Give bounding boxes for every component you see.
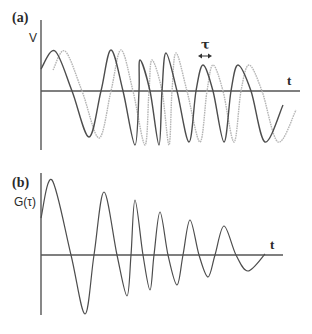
panel-a-ylabel: V — [29, 31, 37, 45]
figure: (a) V t τ (b) G(τ) t — [0, 0, 312, 334]
panel-b-xlabel: t — [270, 237, 275, 252]
panel-a-tag: (a) — [12, 10, 29, 26]
signal-curve — [41, 50, 283, 145]
panel-b: (b) G(τ) t — [12, 173, 283, 315]
panel-b-ylabel: G(τ) — [14, 195, 36, 209]
tau-label: τ — [201, 37, 210, 52]
tau-double-arrow-icon — [198, 54, 212, 59]
panel-a-xlabel: t — [287, 73, 292, 88]
autocorrelation-curve — [41, 179, 265, 314]
panel-b-tag: (b) — [12, 175, 29, 191]
panel-a: (a) V t τ — [12, 10, 300, 150]
